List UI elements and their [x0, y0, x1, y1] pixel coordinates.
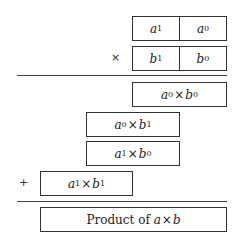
var-label: a — [161, 88, 168, 102]
var-label: b — [185, 88, 193, 102]
multiplier-register: b1 b0 — [132, 46, 227, 71]
var-label: b — [150, 52, 158, 66]
partial-product-a0-b1: a0 × b1 — [86, 112, 180, 137]
partial-product-a0-b0: a0 × b0 — [132, 82, 227, 107]
times-symbol: × — [81, 177, 91, 191]
var-label: b — [139, 147, 147, 161]
multiply-operator: × — [111, 51, 120, 64]
subscript: 0 — [204, 54, 209, 63]
multiplicand-high-cell: a1 — [133, 17, 179, 40]
subscript: 0 — [204, 24, 209, 33]
var-label: b — [92, 177, 100, 191]
times-symbol: × — [174, 88, 184, 102]
var-label: a — [197, 22, 204, 36]
plus-operator: + — [19, 176, 28, 189]
times-symbol: × — [128, 147, 138, 161]
times-symbol: × — [162, 213, 172, 227]
var-label: a — [114, 147, 121, 161]
subscript: 0 — [122, 120, 127, 129]
var-label: b — [197, 52, 205, 66]
subscript: 0 — [168, 90, 173, 99]
subscript: 1 — [157, 54, 162, 63]
multiplicand-register: a1 a0 — [132, 16, 227, 41]
subscript: 1 — [100, 179, 105, 188]
subscript: 1 — [157, 24, 162, 33]
var-label: a — [150, 22, 157, 36]
multiplier-low-cell: b0 — [179, 47, 226, 70]
subscript: 1 — [146, 120, 151, 129]
var-label: a — [68, 177, 75, 191]
product-result: Product of a×b — [40, 207, 227, 232]
var-label: b — [139, 118, 147, 132]
var-label: a — [114, 118, 121, 132]
subscript: 0 — [193, 90, 198, 99]
subscript: 0 — [146, 149, 151, 158]
subscript: 1 — [122, 149, 127, 158]
var-label: b — [173, 213, 181, 227]
multiplicand-low-cell: a0 — [179, 17, 226, 40]
times-symbol: × — [128, 118, 138, 132]
divider-line-bottom — [17, 201, 227, 202]
subscript: 1 — [75, 179, 80, 188]
var-label: a — [154, 213, 161, 227]
product-label: Product of — [86, 213, 153, 227]
partial-product-a1-b1: a1 × b1 — [40, 171, 133, 196]
multiplier-high-cell: b1 — [133, 47, 179, 70]
partial-product-a1-b0: a1 × b0 — [86, 141, 180, 166]
divider-line-top — [17, 75, 227, 76]
